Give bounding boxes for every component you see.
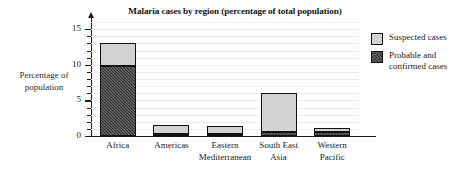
- gridline: [91, 36, 359, 37]
- bar-segment-suspected: [153, 125, 189, 135]
- gridline: [91, 22, 359, 23]
- bar-group: [207, 127, 243, 136]
- bar-group: [100, 43, 136, 136]
- bar-segment-suspected: [100, 43, 136, 66]
- y-axis-tick-label: 0: [59, 130, 81, 140]
- y-axis-tick-label: 5: [59, 94, 81, 104]
- y-axis-tick-label: 10: [59, 59, 81, 69]
- gridline: [91, 29, 359, 30]
- x-axis-tick-label-line: Pacific: [293, 152, 371, 164]
- bar-segment-probable-confirmed: [314, 132, 350, 136]
- legend-label: Suspected cases: [389, 32, 447, 43]
- bar-segment-suspected: [261, 93, 297, 133]
- y-axis-major-tick: [85, 136, 92, 137]
- legend-swatch: [371, 51, 383, 63]
- chart-title: Malaria cases by region (percentage of t…: [100, 6, 370, 16]
- legend-label-line: Probable and: [389, 50, 447, 61]
- bar-group: [314, 128, 350, 136]
- x-axis-tick-label-line: Western: [293, 140, 371, 152]
- bar-segment-suspected: [207, 126, 243, 135]
- legend-swatch: [371, 33, 383, 45]
- legend-label: Probable andconfirmed cases: [389, 50, 447, 72]
- y-axis-label: Percentage of population: [6, 70, 82, 93]
- legend-label-line: Suspected cases: [389, 32, 447, 43]
- bar-group: [153, 125, 189, 136]
- y-axis-tick-label: 15: [59, 23, 81, 33]
- y-axis-label-line-2: population: [6, 82, 82, 94]
- bar-segment-suspected: [314, 128, 350, 132]
- bar-segment-probable-confirmed: [100, 66, 136, 136]
- x-axis-tick-label: WesternPacific: [293, 140, 371, 163]
- chart-figure: Malaria cases by region (percentage of t…: [0, 0, 473, 176]
- legend-item[interactable]: Suspected cases: [371, 32, 471, 45]
- y-axis-label-line-1: Percentage of: [6, 70, 82, 82]
- x-axis-line: [91, 136, 376, 137]
- legend: Suspected casesProbable andconfirmed cas…: [371, 32, 471, 77]
- plot-area: [91, 22, 359, 136]
- legend-label-line: confirmed cases: [389, 61, 447, 72]
- bar-segment-probable-confirmed: [261, 132, 297, 136]
- legend-item[interactable]: Probable andconfirmed cases: [371, 50, 471, 72]
- bar-group: [261, 93, 297, 136]
